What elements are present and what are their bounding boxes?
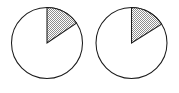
pie-chart-figure xyxy=(0,0,179,93)
two-pie-charts-canvas xyxy=(0,0,179,93)
right-pie-chart xyxy=(96,8,167,79)
left-pie-chart xyxy=(12,8,83,79)
